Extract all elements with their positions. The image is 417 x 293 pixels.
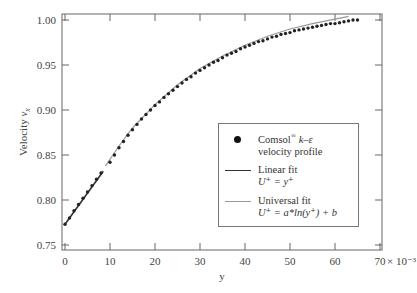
x-tick-label: 10 [105,255,117,267]
x-axis-title: y [219,270,225,282]
legend-label: Universal fit [258,195,311,206]
data-point [234,50,237,53]
data-point [189,75,192,78]
data-point [117,146,120,149]
data-point [293,29,296,32]
data-point [311,26,314,29]
data-point [356,18,359,21]
data-point [126,134,129,137]
data-point [216,59,219,62]
data-point [320,24,323,27]
x-tick-label: 50 [285,255,297,267]
data-point [324,23,327,26]
legend-item-linear-fit: Linear fit U⁺ = y⁺ [219,163,358,193]
data-point [77,203,80,206]
data-point [275,35,278,38]
legend-item-comsol: Comsol® k–ε velocity profile [219,130,358,160]
y-tick-label: 1.00 [37,14,57,26]
data-point [221,56,224,59]
data-point [162,96,165,99]
data-point [95,178,98,181]
legend-label-line2: velocity profile [258,146,322,157]
y-tick-label: 0.85 [37,149,57,161]
data-point [81,197,84,200]
data-point [108,161,111,164]
legend-item-universal-fit: Universal fit U⁺ = a*ln(y⁺) + b [219,194,358,224]
data-point [239,47,242,50]
data-point [153,104,156,107]
y-tick-label: 0.95 [37,59,57,71]
data-point [171,89,174,92]
y-axis-title: Velocity vx [17,108,32,156]
data-point [252,42,255,45]
data-point [270,35,273,38]
y-tick-label: 0.90 [37,104,57,116]
x-tick-label: 0 [62,255,68,267]
data-point [176,85,179,88]
data-point [347,19,350,22]
data-point [243,45,246,48]
data-point [279,33,282,36]
data-point [266,37,269,40]
y-tick-label: 0.80 [37,194,57,206]
data-point [90,184,93,187]
data-point [284,32,287,35]
data-point [140,117,143,120]
data-point [113,153,116,156]
legend: Comsol® k–ε velocity profile Linear fit … [218,123,359,227]
data-point [333,22,336,25]
data-point [122,140,125,143]
data-point [302,27,305,30]
data-point [131,128,134,131]
data-point [351,18,354,21]
data-point [185,78,188,81]
data-point [86,190,89,193]
data-point [72,209,75,212]
data-point [338,21,341,24]
line-light-icon [225,201,251,202]
data-point [342,20,345,23]
x-tick-label: 30 [195,255,207,267]
legend-label: Comsol [258,134,291,145]
data-point [207,63,210,66]
data-point [135,123,138,126]
x-tick-label: 60 [330,255,342,267]
data-point [230,52,233,55]
data-point [297,28,300,31]
x-tick-label: 20 [150,255,162,267]
legend-label-model: k–ε [296,134,313,145]
data-point [248,44,251,47]
data-point [144,113,147,116]
data-point [329,22,332,25]
x-tick-label: 40 [240,255,252,267]
data-point [63,223,66,226]
data-point [261,39,264,42]
data-point [198,69,201,72]
data-point [212,61,215,64]
data-point [306,26,309,29]
data-point [257,40,260,43]
marker-dot-icon [225,136,251,143]
legend-formula: U⁺ = y⁺ [258,176,294,187]
x-tick-label: 70 [375,255,387,267]
data-point [225,53,228,56]
y-tick-label: 0.75 [37,239,57,251]
legend-formula: U⁺ = a*ln(y⁺) + b [258,207,337,218]
data-point [99,171,102,174]
data-point [180,81,183,84]
legend-label: Linear fit [258,164,297,175]
data-point [203,66,206,69]
x-multiplier-label: × 10⁻³ [387,255,417,267]
line-dark-icon [225,170,251,171]
data-point [288,31,291,34]
data-point [68,216,71,219]
data-point [194,71,197,74]
data-point [315,25,318,28]
data-point [158,100,161,103]
data-point [167,92,170,95]
data-point [149,108,152,111]
